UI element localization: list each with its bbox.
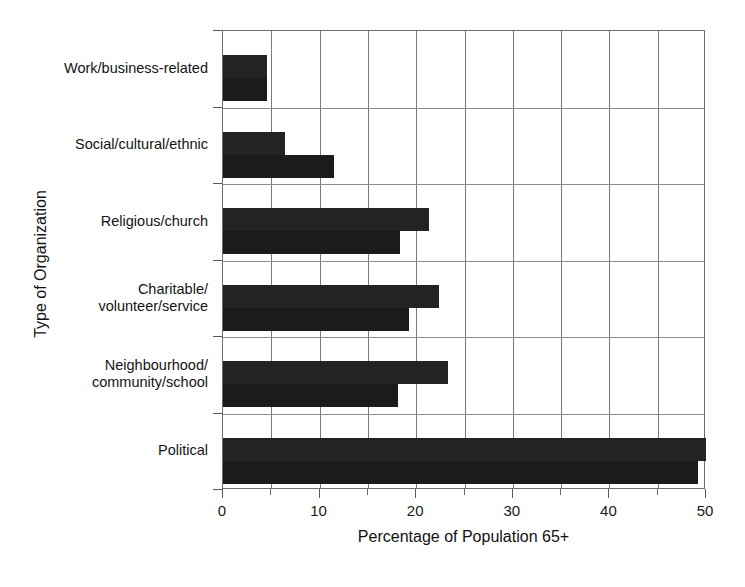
bar-5-lower bbox=[223, 461, 698, 484]
gridline-x-20 bbox=[416, 31, 417, 488]
x-tick-minor-45 bbox=[657, 489, 658, 495]
x-tick-label-20: 20 bbox=[407, 502, 424, 519]
x-tick-major-50 bbox=[705, 489, 706, 498]
gridline-x-35 bbox=[561, 31, 562, 488]
bar-2-lower bbox=[223, 231, 400, 254]
bar-1-lower bbox=[223, 155, 334, 178]
x-tick-label-50: 50 bbox=[697, 502, 714, 519]
x-tick-major-30 bbox=[512, 489, 513, 498]
gridline-x-10 bbox=[320, 31, 321, 488]
category-separator-1 bbox=[223, 108, 704, 109]
category-label-3: Charitable/ volunteer/service bbox=[98, 281, 208, 315]
bar-2-upper bbox=[223, 208, 429, 231]
bar-3-lower bbox=[223, 308, 409, 331]
y-axis-title: Type of Organization bbox=[32, 124, 50, 404]
category-separator-5 bbox=[223, 414, 704, 415]
category-separator-4 bbox=[223, 337, 704, 338]
x-tick-label-0: 0 bbox=[218, 502, 226, 519]
x-tick-major-0 bbox=[222, 489, 223, 498]
x-tick-minor-35 bbox=[560, 489, 561, 495]
bar-5-upper bbox=[223, 438, 706, 461]
gridline-x-15 bbox=[368, 31, 369, 488]
bar-chart: Type of Organization Work/business-relat… bbox=[0, 0, 745, 587]
gridline-x-5 bbox=[271, 31, 272, 488]
x-tick-label-10: 10 bbox=[310, 502, 327, 519]
x-tick-minor-5 bbox=[270, 489, 271, 495]
x-tick-minor-15 bbox=[367, 489, 368, 495]
x-tick-major-10 bbox=[319, 489, 320, 498]
x-tick-major-40 bbox=[608, 489, 609, 498]
x-axis-title: Percentage of Population 65+ bbox=[222, 528, 705, 546]
gridline-x-40 bbox=[609, 31, 610, 488]
category-separator-3 bbox=[223, 261, 704, 262]
bar-4-lower bbox=[223, 384, 398, 407]
category-label-5: Political bbox=[158, 442, 208, 459]
bar-0-lower bbox=[223, 78, 267, 101]
x-tick-minor-25 bbox=[464, 489, 465, 495]
category-label-0: Work/business-related bbox=[64, 60, 208, 77]
bar-0-upper bbox=[223, 55, 267, 78]
x-tick-label-40: 40 bbox=[600, 502, 617, 519]
plot-area bbox=[222, 30, 705, 489]
category-label-2: Religious/church bbox=[101, 213, 208, 230]
category-separator-2 bbox=[223, 184, 704, 185]
x-tick-major-20 bbox=[415, 489, 416, 498]
category-label-1: Social/cultural/ethnic bbox=[75, 136, 208, 153]
x-tick-label-30: 30 bbox=[503, 502, 520, 519]
bar-1-upper bbox=[223, 132, 285, 155]
category-label-4: Neighbourhood/ community/school bbox=[92, 357, 208, 391]
gridline-x-45 bbox=[658, 31, 659, 488]
bar-3-upper bbox=[223, 285, 439, 308]
bar-4-upper bbox=[223, 361, 448, 384]
gridline-x-30 bbox=[513, 31, 514, 488]
gridline-x-25 bbox=[465, 31, 466, 488]
